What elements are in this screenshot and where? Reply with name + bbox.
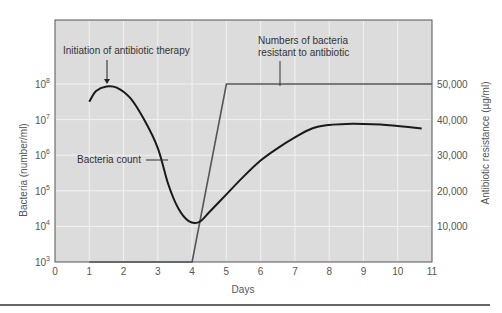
x-tick-label: 10	[392, 266, 404, 277]
bacteria-count-label: Bacteria count	[77, 154, 141, 165]
right-tick-label: 50,000	[437, 79, 468, 90]
left-tick-label: 108	[35, 77, 50, 90]
left-axis-label: Bacteria (number/ml)	[18, 123, 29, 216]
bottom-rule	[0, 304, 490, 306]
resistant-label-line1: Numbers of bacteria	[258, 35, 348, 46]
x-axis-ticks: 01234567891011	[52, 266, 437, 277]
chart: 01234567891011 103104105106107108 10,000…	[0, 0, 502, 313]
resistant-label-line2: resistant to antibiotic	[258, 47, 349, 58]
left-tick-label: 103	[35, 255, 50, 268]
right-tick-label: 30,000	[437, 150, 468, 161]
x-tick-label: 11	[427, 266, 438, 277]
x-tick-label: 7	[292, 266, 298, 277]
plot-area	[55, 20, 432, 262]
right-tick-label: 20,000	[437, 186, 468, 197]
x-tick-label: 3	[155, 266, 161, 277]
right-axis-label: Antibiotic resistance (µg/ml)	[480, 81, 491, 204]
x-tick-label: 8	[326, 266, 332, 277]
x-tick-label: 9	[361, 266, 367, 277]
right-tick-label: 10,000	[437, 221, 468, 232]
x-axis-label: Days	[232, 284, 255, 295]
x-tick-label: 6	[258, 266, 264, 277]
left-axis-ticks: 103104105106107108	[35, 77, 50, 268]
left-tick-label: 104	[35, 219, 50, 232]
right-tick-label: 40,000	[437, 115, 468, 126]
x-tick-label: 0	[52, 266, 58, 277]
x-tick-label: 5	[224, 266, 230, 277]
left-tick-label: 106	[35, 148, 50, 161]
right-axis-ticks: 10,00020,00030,00040,00050,000	[437, 79, 468, 232]
x-tick-label: 1	[86, 266, 92, 277]
x-tick-label: 2	[121, 266, 127, 277]
initiation-label: Initiation of antibiotic therapy	[63, 45, 190, 56]
x-tick-label: 4	[189, 266, 195, 277]
left-tick-label: 107	[35, 113, 50, 126]
left-tick-label: 105	[35, 184, 50, 197]
